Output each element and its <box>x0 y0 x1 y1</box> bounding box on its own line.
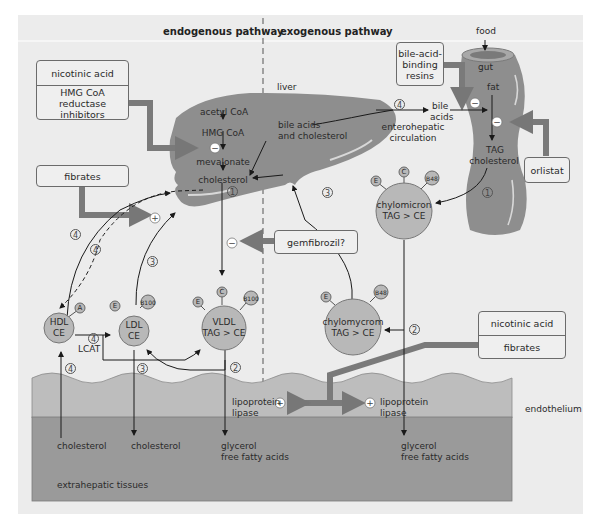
orlistat-box: orlistat <box>524 157 570 183</box>
gemfibrozil-label: gemfibrozil? <box>275 231 357 253</box>
chylomycrom-label: chylomycromTAG > CE <box>322 317 384 339</box>
exogenous-header: exogenous pathway <box>280 26 393 37</box>
apo-c-chylomicron: C <box>399 167 409 178</box>
lpl-label-2a: lipase <box>232 408 258 419</box>
glycerol-b: glycerol <box>401 441 437 452</box>
chylomicron-label: chylomicronTAG > CE <box>376 200 432 222</box>
apo-e-chylomicron: E <box>371 176 381 187</box>
apo-b100-ldl: B100 <box>140 297 156 308</box>
bile-acids-label-1: bile <box>432 101 448 112</box>
ffa-b: free fatty acids <box>401 452 469 463</box>
fibrates-label: fibrates <box>37 166 128 186</box>
hmg-coa-label: HMG CoA <box>200 128 246 139</box>
acetyl-coa-label: acetyl CoA <box>200 107 246 118</box>
bile-acids-cholesterol-label-1: bile acids <box>278 120 320 131</box>
bile-acid-resins-box: bile-acid- binding resins <box>396 42 444 86</box>
gut-label: gut <box>478 62 493 73</box>
statin-nicotinic-box: nicotinic acid HMG CoA reductase inhibit… <box>36 60 129 120</box>
svg-text:+: + <box>151 213 159 223</box>
step-2-vldl: 2 <box>230 362 241 373</box>
apo-b48-chylomycrom: B48 <box>373 287 389 298</box>
step-4-tissue: 4 <box>65 363 76 374</box>
apo-e-ldl: E <box>110 301 120 312</box>
fibrates-box: fibrates <box>36 165 129 187</box>
step-4-lcat: 4 <box>88 333 99 344</box>
inhibitors-label: inhibitors <box>60 109 104 120</box>
resins-label-1: bile-acid- <box>398 48 442 59</box>
svg-text:−: − <box>493 117 501 127</box>
apo-e-chylomycrom: E <box>321 292 331 303</box>
step-2-chylo: 2 <box>409 324 420 335</box>
orlistat-label: orlistat <box>525 158 569 182</box>
step-4-dashed: 4 <box>70 229 81 240</box>
svg-text:−: − <box>228 238 236 248</box>
lpl-label-1b: lipoprotein <box>380 397 428 408</box>
enterohepatic-label-1: enterohepatic <box>378 122 448 133</box>
svg-text:−: − <box>211 143 219 153</box>
resins-label-3: resins <box>406 70 434 81</box>
resins-label-2: binding <box>402 59 437 70</box>
lpl-label-1a: lipoprotein <box>232 397 280 408</box>
nicotinic-acid-label: nicotinic acid <box>37 61 128 85</box>
liver-cholesterol-label: cholesterol <box>196 175 250 186</box>
svg-text:+: + <box>366 398 374 408</box>
step-3-ldl-liver: 3 <box>147 256 158 267</box>
enterohepatic-label-2: circulation <box>378 133 448 144</box>
liver-label: liver <box>277 82 297 93</box>
step-3-tissue: 3 <box>137 363 148 374</box>
apo-b100-vldl: B100 <box>243 293 259 304</box>
tag-label: TAG <box>470 145 520 156</box>
tissue-cholesterol-a: cholesterol <box>57 441 106 452</box>
extrahepatic-label: extrahepatic tissues <box>57 480 148 491</box>
lipid-metabolism-diagram: − − − − + + + endogenous pathway exogeno… <box>0 0 594 527</box>
glycerol-a: glycerol <box>221 441 257 452</box>
gut-cholesterol-label: cholesterol <box>464 156 524 167</box>
vldl-label: VLDLTAG > CE <box>200 317 248 339</box>
endogenous-header: endogenous pathway <box>163 26 283 37</box>
bile-acids-cholesterol-label-2: and cholesterol <box>278 131 347 142</box>
apo-e-vldl: E <box>193 297 203 308</box>
apo-b48-chylomicron: B48 <box>424 173 440 184</box>
apo-c-vldl: C <box>217 287 227 298</box>
nicotinic-fibrates-box: nicotinic acid fibrates <box>478 311 566 359</box>
endothelium-label: endothelium <box>525 404 582 415</box>
apo-a-hdl: A <box>75 303 85 314</box>
step-4-bile: 4 <box>394 99 405 110</box>
mevalonate-label: mevalonate <box>196 157 250 168</box>
nicotinic-acid-label-2: nicotinic acid <box>479 312 565 335</box>
ldl-label: LDLCE <box>119 320 149 342</box>
step-4-hdl-liver: 4 <box>90 244 101 255</box>
hmg-coa-reductase-label: HMG CoA reductase <box>37 87 128 109</box>
hdl-label: HDLCE <box>44 317 74 339</box>
food-label: food <box>476 26 496 37</box>
step-1-gut: 1 <box>482 187 493 198</box>
step-1-liver: 1 <box>227 186 238 197</box>
lpl-label-2b: lipase <box>380 408 406 419</box>
lcat-label: LCAT <box>78 344 100 355</box>
gemfibrozil-box: gemfibrozil? <box>274 230 358 254</box>
tissue-cholesterol-b: cholesterol <box>131 441 180 452</box>
fat-label: fat <box>487 82 499 93</box>
fibrates-label-2: fibrates <box>479 335 565 359</box>
step-3-remnant: 3 <box>322 187 333 198</box>
svg-text:−: − <box>471 98 479 108</box>
ffa-a: free fatty acids <box>221 452 289 463</box>
